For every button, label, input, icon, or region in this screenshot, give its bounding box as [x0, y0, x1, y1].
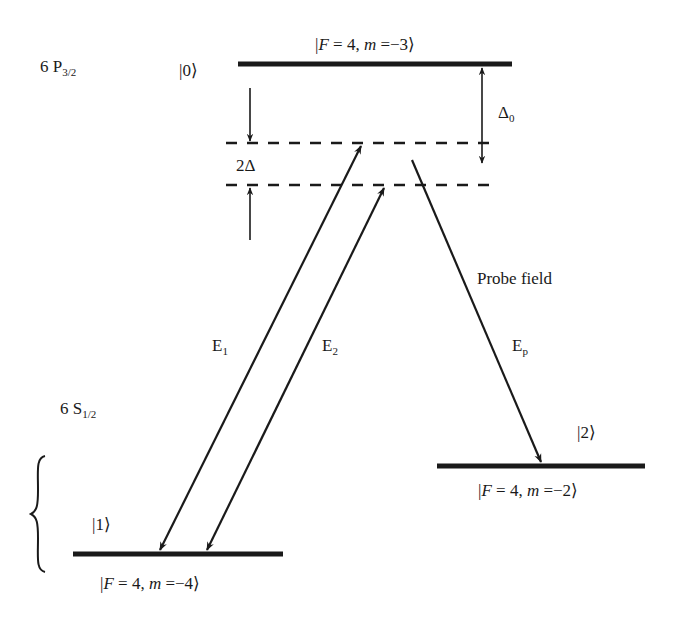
two-delta-label: 2Δ: [236, 157, 255, 174]
probe-field-label: Probe field: [477, 270, 552, 287]
level-0-ket: |0⟩: [179, 62, 198, 79]
e2-transition-arrow: [207, 188, 384, 550]
level-1-ket: |1⟩: [92, 516, 111, 533]
ep-label: Ep: [512, 337, 528, 357]
level-0-state-label: |F = 4, m =−3⟩: [315, 36, 415, 53]
e2-label: E2: [322, 337, 338, 357]
delta0-label: Δ0: [498, 104, 514, 124]
excited-manifold-label: 6 P3/2: [40, 58, 76, 78]
level-1-state-label: |F = 4, m =−4⟩: [100, 575, 200, 592]
level-2-ket: |2⟩: [577, 424, 596, 441]
level-2-state-label: |F = 4, m =−2⟩: [478, 482, 578, 499]
probe-transition-arrow: [412, 160, 541, 462]
e1-label: E1: [212, 337, 228, 357]
ground-manifold-label: 6 S1/2: [60, 400, 96, 420]
ground-manifold-brace: [31, 456, 45, 572]
